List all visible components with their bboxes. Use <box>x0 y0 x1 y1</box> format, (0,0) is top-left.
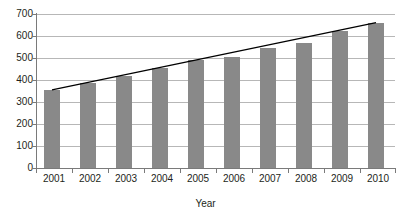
x-tick-label: 2004 <box>142 173 182 185</box>
y-tick-label: 700 <box>5 9 33 19</box>
trendline <box>36 14 395 168</box>
y-tick-label: 0 <box>5 163 33 173</box>
x-tick-label: 2002 <box>70 173 110 185</box>
y-axis-labels: 700 600 500 400 300 200 100 0 <box>0 0 33 219</box>
x-axis-title: Year <box>0 198 411 209</box>
x-tick-label: 2003 <box>106 173 146 185</box>
x-tick-label: 2006 <box>214 173 254 185</box>
x-tick-label: 2001 <box>34 173 74 185</box>
y-axis-line <box>36 13 37 169</box>
x-tick-label: 2005 <box>178 173 218 185</box>
y-tick-label: 100 <box>5 141 33 151</box>
x-tick-label: 2009 <box>322 173 362 185</box>
y-tick-label: 600 <box>5 31 33 41</box>
y-tick-label: 300 <box>5 97 33 107</box>
x-tick-label: 2010 <box>358 173 398 185</box>
y-tick-label: 200 <box>5 119 33 129</box>
y-tick-label: 500 <box>5 53 33 63</box>
bar-chart: 700 600 500 400 300 200 100 0 <box>0 0 411 219</box>
x-tick-label: 2008 <box>286 173 326 185</box>
x-tick-label: 2007 <box>250 173 290 185</box>
y-tick-label: 400 <box>5 75 33 85</box>
